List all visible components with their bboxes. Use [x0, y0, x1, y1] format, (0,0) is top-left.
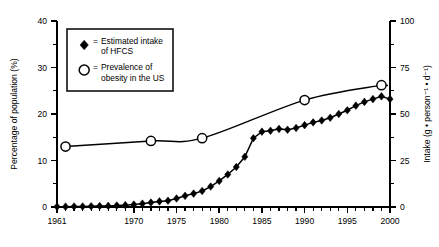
hfcs-data-point [378, 93, 384, 101]
hfcs-data-point [267, 127, 273, 135]
hfcs-data-point [344, 106, 350, 114]
xtick-label-1990: 1990 [295, 216, 314, 226]
hfcs-data-point [62, 203, 68, 211]
chart-container: 0 10 20 30 40 Percentage of population (… [0, 0, 439, 247]
x-axis: 19611970197519801985199019952000 [47, 207, 399, 226]
hfcs-data-point [361, 98, 367, 106]
ytick-label-left-10: 10 [37, 156, 47, 166]
hfcs-data-point [173, 195, 179, 203]
legend-hfcs-line2: of HFCS [101, 46, 134, 56]
hfcs-obesity-chart: 0 10 20 30 40 Percentage of population (… [0, 0, 439, 247]
legend-hfcs-eq: = [93, 36, 98, 46]
xtick-label-1961: 1961 [47, 216, 66, 226]
hfcs-data-point [165, 197, 171, 205]
hfcs-marker-group [54, 93, 393, 211]
obesity-data-point [146, 136, 155, 145]
series-hfcs [54, 93, 393, 211]
hfcs-data-point [191, 190, 197, 198]
hfcs-data-point [370, 95, 376, 103]
obesity-data-point [61, 142, 70, 151]
hfcs-data-point [156, 198, 162, 206]
hfcs-data-point [387, 95, 393, 103]
hfcs-data-point [276, 125, 282, 133]
ytick-label-left-20: 20 [37, 109, 47, 119]
xtick-label-2000: 2000 [380, 216, 399, 226]
hfcs-data-point [148, 199, 154, 207]
ytick-label-right-25: 25 [400, 156, 410, 166]
hfcs-data-point [319, 117, 325, 125]
hfcs-data-point [293, 124, 299, 132]
legend: = Estimated intake of HFCS = Prevalence … [67, 29, 173, 91]
ytick-label-right-75: 75 [400, 63, 410, 73]
ytick-label-right-100: 100 [400, 16, 415, 26]
ytick-label-right-50: 50 [400, 109, 410, 119]
hfcs-data-point [88, 202, 94, 210]
hfcs-data-point [199, 187, 205, 195]
hfcs-data-point [353, 102, 359, 110]
hfcs-data-point [284, 126, 290, 134]
left-axis-title: Percentage of population (%) [9, 58, 19, 169]
ytick-label-right-0: 0 [400, 202, 405, 212]
ytick-label-left-40: 40 [37, 16, 47, 26]
legend-obesity-eq: = [93, 62, 98, 72]
left-y-axis: 0 10 20 30 40 Percentage of population (… [9, 16, 57, 212]
hfcs-data-point [216, 177, 222, 185]
obesity-data-point [300, 95, 309, 104]
legend-obesity-line2: obesity in the US [101, 73, 165, 83]
xtick-label-1980: 1980 [210, 216, 229, 226]
ytick-label-left-0: 0 [42, 202, 47, 212]
hfcs-data-point [97, 202, 103, 210]
hfcs-data-point [259, 128, 265, 136]
hfcs-data-point [80, 203, 86, 211]
circle-marker-icon [79, 65, 89, 75]
xtick-label-1995: 1995 [338, 216, 357, 226]
obesity-data-point [198, 134, 207, 143]
hfcs-data-point [302, 121, 308, 129]
ytick-label-left-30: 30 [37, 63, 47, 73]
hfcs-data-point [182, 192, 188, 200]
hfcs-data-point [114, 202, 120, 210]
x-tick-label-group: 19611970197519801985199019952000 [47, 216, 399, 226]
hfcs-data-point [310, 119, 316, 127]
xtick-label-1975: 1975 [167, 216, 186, 226]
hfcs-data-point [208, 183, 214, 191]
hfcs-data-point [71, 203, 77, 211]
xtick-label-1970: 1970 [124, 216, 143, 226]
hfcs-data-point [54, 203, 60, 211]
hfcs-data-point [105, 202, 111, 210]
hfcs-data-point [250, 134, 256, 142]
xtick-label-1985: 1985 [252, 216, 271, 226]
legend-obesity-line1: Prevalence of [101, 62, 153, 72]
right-axis-title: Intake (g • person⁻¹ • d⁻¹) [422, 65, 432, 163]
hfcs-data-point [336, 110, 342, 118]
obesity-data-point [377, 81, 386, 90]
hfcs-data-point [327, 114, 333, 122]
right-y-axis: 0 25 50 75 100 Intake (g • person⁻¹ • d⁻… [390, 16, 432, 212]
legend-hfcs-line1: Estimated intake [101, 36, 163, 46]
